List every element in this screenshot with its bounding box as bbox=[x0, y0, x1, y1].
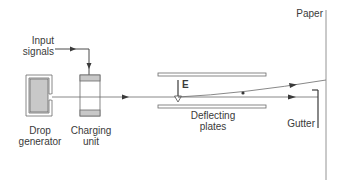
field-label: E bbox=[182, 79, 189, 91]
charged-drop-path bbox=[178, 80, 326, 97]
ink-jet-diagram: Input signals Drop generator Charging un… bbox=[0, 0, 342, 180]
input-signals-arrow bbox=[55, 47, 92, 76]
drop-generator-label-line2: generator bbox=[14, 136, 66, 148]
drop-generator bbox=[26, 75, 52, 116]
input-signals-label-line2: signals bbox=[14, 46, 54, 58]
field-arrow bbox=[175, 80, 182, 102]
charging-unit-label-line2: unit bbox=[66, 136, 116, 148]
paper-label: Paper bbox=[290, 8, 323, 20]
charging-unit bbox=[80, 75, 100, 116]
diagram-canvas bbox=[0, 0, 342, 180]
uncharged-drop-path bbox=[178, 95, 318, 100]
deflecting-plates-label-line2: plates bbox=[183, 121, 243, 133]
drop-path bbox=[52, 95, 178, 100]
gutter-label: Gutter bbox=[280, 118, 315, 130]
